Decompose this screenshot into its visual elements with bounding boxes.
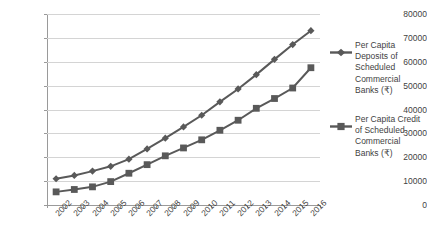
legend-label: Per Capita Credit of Scheduled Commercia… bbox=[355, 114, 425, 159]
data-point-marker bbox=[71, 186, 78, 193]
y-axis-tick-label: 80000 bbox=[385, 10, 427, 18]
diamond-marker-icon bbox=[330, 43, 352, 52]
y-axis-tick-label: 0 bbox=[385, 201, 427, 209]
data-point-marker bbox=[253, 105, 260, 112]
data-point-marker bbox=[126, 170, 133, 177]
data-point-marker bbox=[144, 161, 151, 168]
data-point-marker bbox=[198, 136, 205, 143]
data-point-marker bbox=[308, 64, 315, 71]
data-point-marker bbox=[107, 178, 114, 185]
line-chart: 8000070000600005000040000300002000010000… bbox=[0, 0, 427, 251]
legend-label: Per Capita Deposits of Scheduled Commerc… bbox=[355, 40, 425, 96]
x-axis-tick-mark bbox=[47, 205, 48, 208]
data-point-marker bbox=[53, 188, 60, 195]
data-point-marker bbox=[107, 163, 114, 170]
legend-entry-2[interactable]: Per Capita Credit of Scheduled Commercia… bbox=[330, 114, 425, 159]
data-point-marker bbox=[271, 95, 278, 102]
legend-entry-1[interactable]: Per Capita Deposits of Scheduled Commerc… bbox=[330, 40, 425, 96]
data-point-marker bbox=[180, 145, 187, 152]
data-point-marker bbox=[89, 183, 96, 190]
data-point-marker bbox=[71, 172, 78, 179]
y-axis-tick-label: 10000 bbox=[385, 177, 427, 185]
data-point-marker bbox=[217, 127, 224, 134]
data-point-marker bbox=[162, 152, 169, 159]
data-point-marker bbox=[89, 167, 96, 174]
data-point-marker bbox=[289, 85, 296, 92]
square-marker-icon bbox=[330, 117, 352, 126]
series-line-1 bbox=[56, 31, 311, 179]
data-point-marker bbox=[235, 117, 242, 124]
chart-legend: Per Capita Deposits of Scheduled Commerc… bbox=[330, 40, 425, 177]
data-point-marker bbox=[53, 175, 60, 182]
data-series-layer bbox=[47, 14, 320, 205]
